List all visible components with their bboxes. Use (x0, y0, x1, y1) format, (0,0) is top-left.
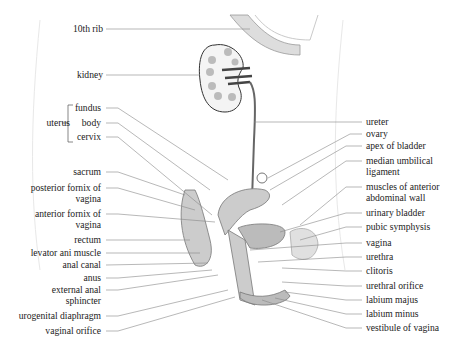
label-kidney: kidney (77, 69, 103, 80)
label-urinary-bladder: urinary bladder (366, 207, 425, 218)
label-clitoris: clitoris (366, 265, 393, 276)
label-urogenital-diaphragm: urogenital diaphragm (19, 310, 101, 321)
label-sacrum: sacrum (73, 166, 101, 177)
label-labium-minus: labium minus (366, 308, 419, 319)
label-uterus-fundus: fundus (75, 102, 101, 113)
label-uterus-group: uterus (47, 117, 70, 128)
label-median-umbilical-ligament: median umbilicalligament (366, 155, 433, 177)
label-ovary: ovary (366, 128, 388, 139)
label-anus: anus (83, 272, 101, 283)
label-vaginal-orifice: vaginal orifice (45, 325, 101, 336)
label-posterior-fornix: posterior fornix ofvagina (31, 182, 101, 204)
label-urethra: urethra (366, 251, 393, 262)
label-external-anal-sphincter: external analsphincter (52, 284, 101, 306)
label-rectum: rectum (74, 234, 101, 245)
label-uterus-cervix: cervix (77, 131, 101, 142)
label-vestibule-of-vagina: vestibule of vagina (366, 322, 439, 333)
label-ureter: ureter (366, 116, 388, 127)
anatomy-diagram: 10th rib kidney uterus fundus body cervi… (0, 0, 464, 359)
label-levator-ani: levator ani muscle (31, 247, 101, 258)
label-anal-canal: anal canal (62, 259, 101, 270)
label-uterus-body: body (82, 117, 101, 128)
label-labium-majus: labium majus (366, 294, 418, 305)
label-anterior-fornix: anterior fornix ofvagina (35, 208, 101, 230)
label-pubic-symphysis: pubic symphysis (366, 221, 430, 232)
label-apex-of-bladder: apex of bladder (366, 140, 426, 151)
label-muscles-anterior-abdominal-wall: muscles of anteriorabdominal wall (366, 181, 440, 203)
label-10th-rib: 10th rib (73, 23, 103, 34)
label-urethral-orifice: urethral orifice (366, 280, 423, 291)
label-vagina: vagina (366, 237, 392, 248)
